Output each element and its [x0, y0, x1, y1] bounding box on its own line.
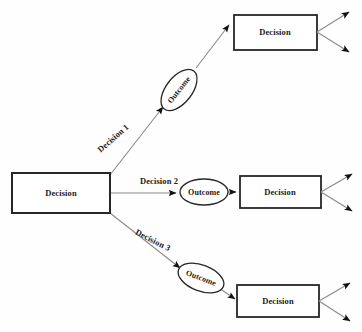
decision-tree-diagram: Decision Outcome Outcome Outcome Decisio… [0, 0, 362, 332]
node-decision-bottom-box[interactable] [237, 285, 319, 317]
edge-decision-1-line [110, 107, 163, 175]
node-decision-mid-box[interactable] [240, 176, 321, 208]
edge-outcome-top-to-decision-top [196, 25, 229, 68]
terminal-arrows-mid [321, 174, 352, 211]
diagram-vector-layer [0, 0, 362, 332]
terminal-arrows-top [317, 12, 349, 52]
terminal-arrows-bottom [319, 283, 350, 321]
node-decision-top-box[interactable] [234, 15, 317, 50]
node-outcome-bottom-ellipse[interactable] [174, 257, 228, 298]
edge-decision-3-line [110, 213, 180, 268]
node-root-decision-box[interactable] [12, 173, 110, 213]
node-outcome-mid-ellipse[interactable] [180, 179, 228, 205]
